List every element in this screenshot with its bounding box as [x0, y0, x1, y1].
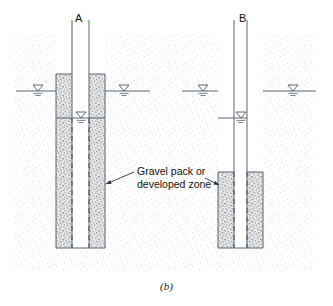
- well-a: [56, 20, 105, 248]
- gravel-pack-annotation: Gravel pack or developed zone: [137, 165, 233, 190]
- well-b: [218, 20, 263, 248]
- annotation-line-2: developed zone: [137, 178, 233, 191]
- well-cross-section-diagram: [0, 0, 333, 306]
- well-a-label: A: [75, 12, 82, 24]
- figure-caption: (b): [0, 280, 333, 292]
- well-a-interior: [72, 20, 89, 248]
- annotation-line-1: Gravel pack or: [137, 165, 233, 178]
- well-b-label: B: [239, 12, 246, 24]
- well-b-gravel-pack-right: [247, 172, 263, 248]
- well-a-gravel-pack-right: [89, 74, 105, 248]
- well-a-gravel-pack-left: [56, 74, 72, 248]
- well-b-interior: [234, 20, 247, 248]
